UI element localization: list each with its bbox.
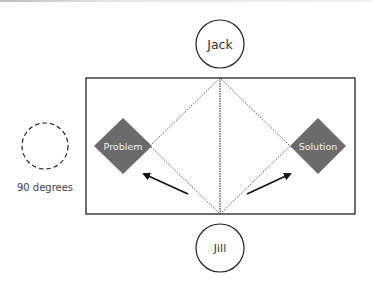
jack-label: Jack [206,37,233,52]
problem-node[interactable]: Problem [94,118,152,174]
jill-label: Jill [213,242,226,255]
diagram-canvas: Problem Solution Jack Jill 90 degrees [0,0,372,291]
dashed-circle-icon [22,123,68,169]
jill-node[interactable]: Jill [196,224,244,272]
solution-node[interactable]: Solution [290,118,346,174]
problem-label: Problem [104,141,143,152]
legend-label: 90 degrees [17,182,73,193]
arrow-to-solution [247,174,290,194]
solution-label: Solution [299,141,338,152]
jack-node[interactable]: Jack [196,20,244,68]
